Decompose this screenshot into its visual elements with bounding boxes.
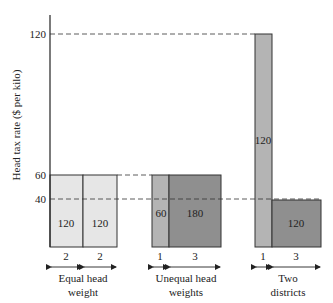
y-axis-label: Head tax rate ($ per kilo) <box>10 69 23 180</box>
width-label-equal-1: 2 <box>63 250 69 262</box>
bar-equal-1 <box>50 175 83 247</box>
y-tick-60: 60 <box>35 169 47 181</box>
group-label-districts-line1: Two <box>278 272 298 284</box>
area-label-unequal-1: 60 <box>156 207 168 219</box>
group-label-equal-line1: Equal head <box>58 272 108 284</box>
width-label-district-2: 3 <box>293 250 299 262</box>
area-label-unequal-3: 180 <box>187 207 204 219</box>
width-label-unequal-1: 1 <box>157 250 163 262</box>
width-label-equal-2: 2 <box>97 250 103 262</box>
bar-equal-2 <box>83 175 117 247</box>
area-label-equal-2: 120 <box>92 217 109 229</box>
width-label-district-1: 1 <box>260 250 266 262</box>
group-label-equal-line2: weight <box>68 286 98 298</box>
y-tick-120: 120 <box>30 28 47 40</box>
width-label-unequal-3: 3 <box>192 250 198 262</box>
group-equal-head-weight <box>50 175 117 247</box>
reference-lines <box>50 34 321 199</box>
area-label-district-1: 120 <box>255 134 272 146</box>
area-label-district-2: 120 <box>288 217 305 229</box>
y-tick-40: 40 <box>35 193 47 205</box>
group-label-unequal-line1: Unequal head <box>156 272 217 284</box>
area-label-equal-1: 120 <box>58 217 75 229</box>
head-tax-chart: 120 60 40 Head tax rate ($ per kilo) 120… <box>0 0 333 303</box>
group-label-unequal-line2: weights <box>169 286 203 298</box>
group-label-districts-line2: districts <box>271 286 306 298</box>
